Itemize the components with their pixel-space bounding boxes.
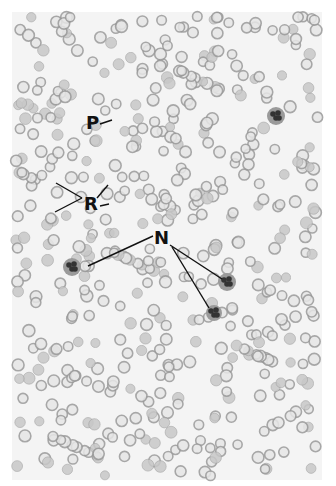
red-blood-cell	[220, 370, 232, 382]
red-blood-cell	[293, 157, 303, 167]
red-blood-cell	[271, 273, 281, 283]
red-blood-cell	[241, 144, 250, 153]
red-blood-cell	[308, 203, 319, 214]
nucleus-lobe	[71, 261, 77, 267]
red-blood-cell	[188, 27, 199, 38]
red-blood-cell	[136, 391, 147, 402]
red-blood-cell	[120, 186, 129, 195]
red-blood-cell	[62, 464, 72, 474]
red-blood-cell	[226, 412, 236, 422]
red-blood-cell	[84, 220, 93, 229]
red-blood-cell	[167, 105, 179, 117]
red-blood-cell	[38, 352, 49, 363]
red-blood-cell	[140, 333, 151, 344]
red-blood-cell	[23, 372, 35, 384]
red-blood-cell	[151, 83, 161, 93]
red-blood-cell	[79, 271, 90, 282]
red-blood-cell	[115, 334, 126, 345]
red-blood-cell	[175, 23, 184, 32]
red-blood-cell	[31, 298, 41, 308]
red-blood-cell	[293, 12, 303, 22]
red-blood-cell	[109, 160, 121, 172]
red-blood-cell	[143, 278, 152, 287]
red-blood-cell	[300, 217, 312, 229]
red-blood-cell	[308, 353, 320, 365]
red-blood-cell	[310, 441, 321, 452]
red-blood-cell	[116, 415, 127, 426]
red-blood-cell	[65, 172, 77, 184]
red-blood-cell	[34, 62, 44, 72]
red-blood-cell	[56, 415, 65, 424]
red-blood-cell	[35, 417, 44, 426]
red-blood-cell	[94, 173, 104, 183]
red-blood-cell	[142, 459, 154, 471]
red-blood-cell	[17, 168, 26, 177]
red-blood-cell	[46, 213, 57, 224]
red-blood-cell	[118, 362, 129, 373]
red-blood-cell	[279, 447, 289, 457]
red-blood-cell	[159, 146, 168, 155]
red-blood-cell	[286, 358, 295, 367]
red-blood-cell	[297, 422, 308, 433]
red-blood-cell	[46, 113, 55, 122]
red-blood-cell	[48, 432, 58, 442]
red-blood-cell	[235, 90, 246, 101]
red-blood-cell	[148, 305, 159, 316]
red-blood-cell	[198, 250, 209, 261]
red-blood-cell	[232, 236, 244, 248]
red-blood-cell	[108, 432, 118, 442]
red-blood-cell	[164, 362, 174, 372]
red-blood-cell	[95, 32, 106, 43]
red-blood-cell	[284, 333, 295, 344]
red-blood-cell	[242, 23, 252, 33]
red-blood-cell	[275, 233, 286, 244]
red-blood-cell	[63, 342, 72, 351]
red-blood-cell	[135, 189, 145, 199]
red-blood-cell	[112, 99, 121, 108]
red-blood-cell	[113, 59, 124, 70]
red-blood-cell	[15, 374, 25, 384]
red-blood-cell	[84, 310, 94, 320]
red-blood-cell	[137, 16, 148, 27]
red-blood-cell	[305, 143, 314, 152]
red-blood-cell	[206, 471, 215, 480]
red-blood-cell	[166, 122, 175, 131]
red-blood-cell	[88, 57, 97, 66]
red-blood-cell	[147, 408, 157, 418]
red-blood-cell	[222, 387, 231, 396]
red-blood-cell	[290, 311, 301, 322]
red-blood-cell	[285, 380, 294, 389]
red-blood-cell	[258, 122, 270, 134]
red-blood-cell	[141, 42, 150, 51]
red-blood-cell	[228, 353, 238, 363]
red-blood-cell	[21, 258, 32, 269]
red-blood-cell	[243, 316, 253, 326]
red-blood-cell	[149, 437, 160, 448]
red-blood-cell	[268, 331, 278, 341]
red-blood-cell	[153, 214, 163, 224]
red-blood-cell	[201, 117, 212, 128]
red-blood-cell	[118, 172, 127, 181]
red-blood-cell	[133, 114, 143, 124]
red-blood-cell	[310, 15, 320, 25]
red-blood-cell	[176, 51, 187, 62]
red-blood-cell	[48, 375, 60, 387]
red-blood-cell	[159, 417, 170, 428]
red-blood-cell	[254, 72, 264, 82]
red-blood-cell	[126, 52, 137, 63]
red-blood-cell	[284, 101, 296, 113]
red-blood-cell	[171, 133, 181, 143]
red-blood-cell	[233, 440, 242, 449]
red-blood-cell	[265, 285, 275, 295]
red-blood-cell	[157, 16, 167, 26]
red-blood-cell	[155, 388, 166, 399]
red-blood-cell	[36, 380, 46, 390]
red-blood-cell	[185, 98, 196, 109]
red-blood-cell	[301, 401, 310, 410]
red-blood-cell	[215, 342, 227, 354]
red-blood-cell	[86, 234, 95, 243]
red-blood-cell	[202, 193, 214, 205]
red-blood-cell	[253, 279, 265, 291]
red-blood-cell	[212, 28, 223, 39]
red-blood-cell	[101, 188, 113, 200]
